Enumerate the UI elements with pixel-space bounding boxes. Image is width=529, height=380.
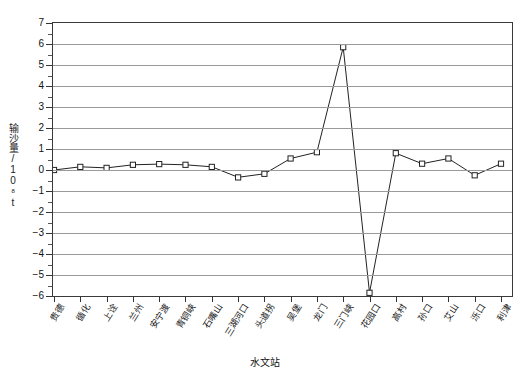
data-point-5 [183,162,188,167]
y-axis-title: 输沙量/10⁸t [2,120,24,210]
y-tick-label--3: −3 [33,228,44,238]
x-tick-label-6: 石嘴山 [201,302,224,330]
x-axis-title-text: 水文站 [250,357,280,368]
y-tick-label-0: 0 [38,165,44,175]
data-point-6 [209,164,214,169]
gridline-y-1 [53,149,512,150]
gridline-y-5 [53,65,512,66]
x-tick-label-9: 吴堡 [285,302,303,323]
x-tick-label-10: 龙门 [311,302,329,323]
x-tick-label-16: 泺口 [469,302,487,323]
gridline-y--2 [53,212,512,213]
data-point-16 [472,173,477,178]
y-tick-label-3: 3 [38,102,44,112]
data-point-15 [446,156,451,161]
gridline-y-3 [53,107,512,108]
data-point-13 [393,151,398,156]
x-tick-label-11: 三门峡 [333,302,356,330]
chart-figure: 输沙量/10⁸t 76543210−1−2−3−4−5−6 贵德循化上诠兰州安宁… [0,0,529,380]
data-point-17 [498,161,503,166]
y-tick-label-4: 4 [38,81,44,91]
x-tick-label-2: 上诠 [101,302,119,323]
y-tick-label--2: −2 [33,207,44,217]
data-point-8 [262,171,267,176]
y-axis-tick-labels: 76543210−1−2−3−4−5−6 [22,22,48,297]
gridline-y-6 [53,44,512,45]
data-point-10 [314,150,319,155]
gridline-y-4 [53,86,512,87]
series-canvas [53,23,512,296]
y-tick-label-1: 1 [38,144,44,154]
data-point-14 [420,161,425,166]
x-tick-label-17: 利津 [495,302,513,323]
gridline-y--4 [53,254,512,255]
x-tick-label-3: 兰州 [127,302,145,323]
x-tick-label-0: 贵德 [48,302,66,323]
y-tick-label-6: 6 [38,39,44,49]
data-point-11 [341,45,346,50]
x-axis-title: 水文站 [0,354,529,369]
y-axis-title-text: 输沙量/10⁸t [8,123,19,208]
x-tick-label-7: 三湖河口 [223,302,251,338]
y-tick-label--1: −1 [33,186,44,196]
gridline-y--5 [53,275,512,276]
x-axis-tick-labels: 贵德循化上诠兰州安宁渡青铜峡石嘴山三湖河口头道拐吴堡龙门三门峡花园口高村孙口艾山… [0,300,529,360]
data-point-12 [367,290,372,295]
y-tick-label-7: 7 [38,18,44,28]
data-point-9 [288,156,293,161]
x-tick-label-1: 循化 [75,302,93,323]
gridline-y-2 [53,128,512,129]
x-tick-label-8: 头道拐 [254,302,277,330]
data-point-4 [157,162,162,167]
data-point-7 [236,175,241,180]
y-tick-label-5: 5 [38,60,44,70]
x-tick-label-14: 孙口 [417,302,435,323]
x-tick-label-5: 青铜峡 [175,302,198,330]
x-tick-label-13: 高村 [390,302,408,323]
y-tick-label--5: −5 [33,270,44,280]
plot-area [52,22,513,297]
data-point-3 [130,162,135,167]
gridline-y--1 [53,191,512,192]
x-tick-label-15: 艾山 [443,302,461,323]
y-tick-label-2: 2 [38,123,44,133]
x-tick-label-12: 花园口 [359,302,382,330]
gridline-y-0 [53,170,512,171]
data-point-1 [78,164,83,169]
gridline-y--3 [53,233,512,234]
y-tick-label--4: −4 [33,249,44,259]
x-tick-label-4: 安宁渡 [149,302,172,330]
